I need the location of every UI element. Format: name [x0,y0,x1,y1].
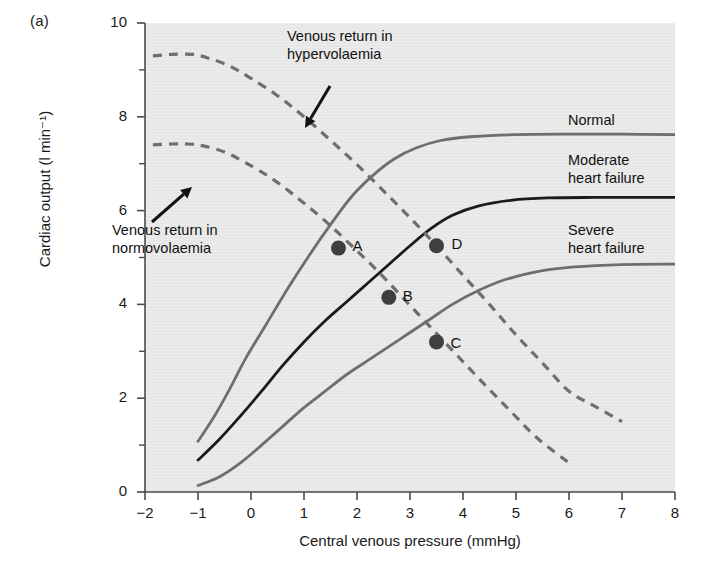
y-tick-label-6: 6 [97,201,127,218]
x-tick-label-1: 1 [289,504,319,521]
x-tick-label-6: 6 [554,504,584,521]
x-tick-label--2: −2 [130,504,160,521]
y-tick-label-8: 8 [97,107,127,124]
x-tick-label-7: 7 [607,504,637,521]
x-tick-label-0: 0 [236,504,266,521]
x-tick-label-8: 8 [660,504,690,521]
x-tick-label-2: 2 [342,504,372,521]
plot-background [145,23,675,492]
data-point-a [331,241,346,256]
y-tick-label-0: 0 [97,482,127,499]
data-point-b [381,290,396,305]
x-tick-label-4: 4 [448,504,478,521]
data-point-d [429,238,444,253]
x-tick-label-5: 5 [501,504,531,521]
data-point-label-c: C [451,334,462,351]
y-tick-label-2: 2 [97,388,127,405]
data-point-label-d: D [452,235,463,252]
data-point-label-a: A [352,237,362,254]
normovolaemia-annotation-text: Venous return innormovolaemia [112,222,218,257]
curve-label-normal: Normal [568,112,615,130]
data-point-c [429,334,444,349]
data-point-label-b: B [403,287,413,304]
curve-label-moderate-heart-failure: Moderateheart failure [568,152,645,187]
curve-label-severe-heart-failure: Severeheart failure [568,222,645,257]
y-tick-label-4: 4 [97,294,127,311]
figure-panel: (a) Cardiac output (l min⁻¹) Central ven… [0,0,708,572]
y-tick-label-10: 10 [97,13,127,30]
x-tick-label-3: 3 [395,504,425,521]
hypervolaemia-annotation-text: Venous return inhypervolaemia [287,28,393,63]
x-tick-label--1: −1 [183,504,213,521]
